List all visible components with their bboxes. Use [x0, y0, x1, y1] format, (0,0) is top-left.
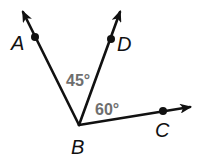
point-label-a: A	[10, 32, 24, 54]
point-a	[31, 33, 39, 41]
angle-diagram: ADCB45°60°	[0, 0, 205, 162]
point-label-c: C	[155, 119, 170, 141]
angle-DBC-label: 60°	[95, 101, 119, 118]
point-d	[107, 35, 115, 43]
point-label-d: D	[117, 33, 131, 55]
vertex-label-b: B	[71, 136, 84, 158]
ray-ba	[23, 12, 79, 125]
angle-ABD-label: 45°	[66, 72, 90, 89]
point-c	[159, 107, 167, 115]
